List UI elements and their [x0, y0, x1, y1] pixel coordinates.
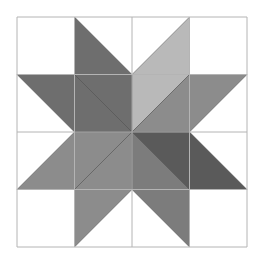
eight-point-star-diagram — [0, 0, 258, 258]
quilt-block-figure — [0, 0, 258, 258]
